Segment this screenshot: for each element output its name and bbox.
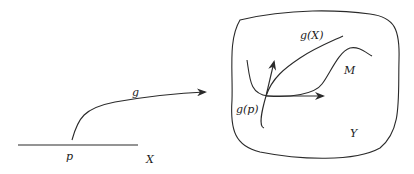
- diagram-canvas: g p X g(X) g(p) M Y: [0, 0, 414, 174]
- label-point-p: p: [66, 150, 73, 163]
- label-domain-x: X: [145, 153, 155, 166]
- label-codomain-y: Y: [350, 127, 359, 140]
- label-image-point-g-p: g(p): [236, 103, 259, 116]
- label-submanifold-m: M: [343, 64, 356, 77]
- tangent-vector-up: [266, 62, 274, 96]
- label-map-g: g: [132, 86, 139, 99]
- label-image-g-x: g(X): [300, 29, 323, 42]
- map-g-arrow: [72, 92, 205, 140]
- curve-g-x: [261, 36, 343, 128]
